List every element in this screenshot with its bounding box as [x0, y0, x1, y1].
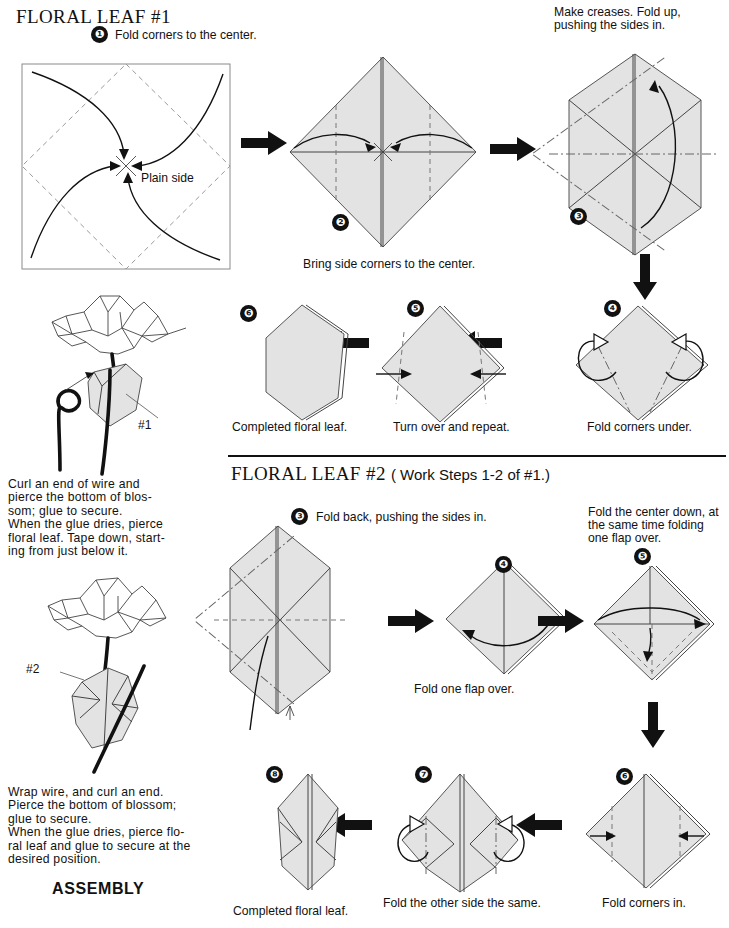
assembly-text-1-line-1: Curl an end of wire and: [8, 478, 204, 491]
step-6-diagram: [258, 300, 368, 425]
l2-step-6-bullet-wrap: ❻: [616, 768, 633, 785]
l2-step-8-caption: Completed floral leaf.: [233, 905, 348, 919]
l2-step-6-caption: Fold corners in.: [602, 897, 686, 911]
l2-step-5-bullet-wrap: ❺: [634, 548, 651, 565]
section-title-leaf2-main: FLORAL LEAF #2: [231, 463, 386, 484]
step-1-instruction: Fold corners to the center.: [115, 29, 257, 43]
flow-arrow-right-2: [490, 136, 538, 164]
step-4-badge: ❹: [604, 300, 621, 317]
step-6-badge: ❻: [240, 305, 257, 322]
step-6-bullet-wrap: ❻: [240, 305, 257, 322]
assembly-text-1-line-5: floral leaf. Tape down, start-: [8, 532, 204, 545]
step-3-instruction-line2: pushing the sides in.: [554, 19, 665, 33]
l2-step-7-bullet-wrap: ❼: [415, 766, 432, 783]
step-2-badge: ❷: [332, 214, 349, 231]
assembly-text-2-line-4: When the glue dries, pierce flo-: [8, 826, 213, 839]
step-1-badge: ❶: [91, 26, 108, 43]
step-2-bullet-wrap: ❷: [332, 214, 349, 231]
l2-step-5-badge: ❺: [634, 548, 651, 565]
step-2-diagram: [288, 55, 478, 250]
blossom-2-tag: #2: [26, 662, 39, 676]
l2-step-7-badge: ❼: [415, 766, 432, 783]
assembly-blossom-2-illustration: [22, 572, 212, 790]
instruction-sheet: FLORAL LEAF #1 ❶ Fold corners to the cen…: [0, 0, 729, 928]
l2-step-4-caption: Fold one flap over.: [414, 683, 514, 697]
assembly-blossom-1-illustration: [22, 290, 212, 475]
l2-step-6-badge: ❻: [616, 768, 633, 785]
assembly-text-1-line-2: pierce the bottom of blos-: [8, 491, 204, 504]
l2-step-8-diagram: [258, 768, 368, 896]
assembly-text-2: Wrap wire, and curl an end. Pierce the b…: [8, 786, 213, 866]
flow-arrow-right-1: [241, 130, 289, 158]
assembly-text-1: Curl an end of wire and pierce the botto…: [8, 478, 204, 558]
step-4-diagram: [570, 302, 720, 424]
l2-flow-arrow-down: [640, 702, 668, 750]
l2-step-5-instruction-line3: one flap over.: [588, 532, 661, 546]
l2-step-7-caption: Fold the other side the same.: [383, 897, 541, 911]
step-5-caption: Turn over and repeat.: [393, 421, 510, 435]
assembly-text-1-line-3: som; glue to secure.: [8, 505, 204, 518]
l2-step-4-bullet-wrap: ❹: [495, 556, 512, 573]
plain-side-label: Plain side: [141, 172, 194, 186]
l2-step-4-badge: ❹: [495, 556, 512, 573]
step-3-badge: ❸: [570, 208, 587, 225]
section-title-leaf2: FLORAL LEAF #2 ( Work Steps 1-2 of #1.): [231, 463, 550, 485]
section-divider: [228, 455, 726, 457]
flow-arrow-down-1: [632, 254, 660, 302]
step-5-badge: ❺: [407, 300, 424, 317]
assembly-text-1-line-4: When the glue dries, pierce: [8, 518, 204, 531]
step-2-caption: Bring side corners to the center.: [303, 258, 475, 272]
assembly-text-2-line-5: ral leaf and glue to secure at the: [8, 840, 213, 853]
assembly-text-2-line-2: Pierce the bottom of blossom;: [8, 799, 213, 812]
section-title-leaf1: FLORAL LEAF #1: [16, 6, 171, 28]
assembly-text-2-line-1: Wrap wire, and curl an end.: [8, 786, 213, 799]
l2-step-6-diagram: [580, 770, 720, 892]
step-3-diagram: [563, 52, 708, 257]
section-title-leaf2-suffix: ( Work Steps 1-2 of #1.): [391, 466, 550, 483]
step-4-bullet-wrap: ❹: [604, 300, 621, 317]
step-5-bullet-wrap: ❺: [407, 300, 424, 317]
step-1-diagram: [20, 62, 235, 274]
assembly-text-2-line-3: glue to secure.: [8, 813, 213, 826]
l2-flow-arrow-right-1: [388, 608, 436, 636]
assembly-text-2-line-6: desired position.: [8, 853, 213, 866]
assembly-text-1-line-6: ing from just below it.: [8, 545, 204, 558]
l2-step-5-diagram: [588, 562, 723, 684]
l2-step-8-badge: ❽: [266, 766, 283, 783]
blossom-1-tag: #1: [138, 418, 151, 432]
step-4-caption: Fold corners under.: [587, 421, 692, 435]
l2-flow-arrow-right-2: [538, 608, 586, 636]
l2-step-7-diagram: [388, 768, 538, 896]
step-1-bullet-wrap: ❶: [91, 26, 108, 43]
step-6-caption: Completed floral leaf.: [232, 421, 347, 435]
l2-step-8-bullet-wrap: ❽: [266, 766, 283, 783]
step-3-bullet-wrap: ❸: [570, 208, 587, 225]
l2-step-3-diagram: [228, 520, 388, 720]
assembly-heading: ASSEMBLY: [52, 880, 144, 898]
step-5-diagram: [370, 300, 520, 425]
